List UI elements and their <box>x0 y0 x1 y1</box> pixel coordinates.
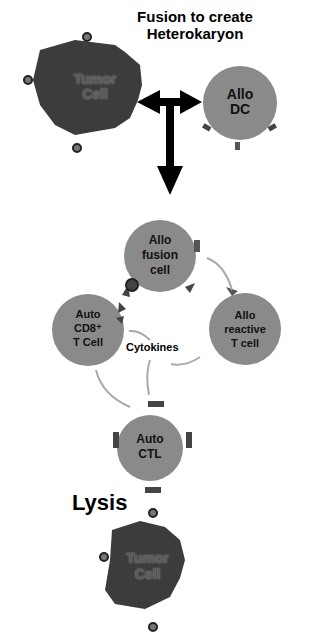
auto-ctl-label: AutoCTL <box>120 432 180 462</box>
tumor-cell-top-label: TumorCell <box>50 72 140 102</box>
cytokines-label: Cytokines <box>126 341 179 353</box>
lysis-label: Lysis <box>72 490 127 516</box>
diagram-title: Fusion to create Heterokaryon <box>100 8 290 42</box>
allo-reactive-cell-label: AlloreactiveT cell <box>210 308 280 350</box>
allo-dc-label: AlloDC <box>210 87 270 117</box>
auto-cd8-cell-label: AutoCD8⁺T Cell <box>55 307 121 349</box>
tumor-cell-bottom-label: TumorCell <box>110 550 185 582</box>
allo-fusion-cell-label: Allofusioncell <box>125 233 195 278</box>
